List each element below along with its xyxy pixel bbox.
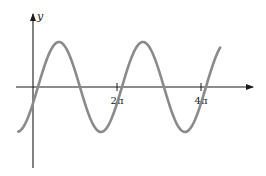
y-axis-label: y xyxy=(36,10,44,23)
sine-graph: 2π 4π y xyxy=(0,0,266,176)
